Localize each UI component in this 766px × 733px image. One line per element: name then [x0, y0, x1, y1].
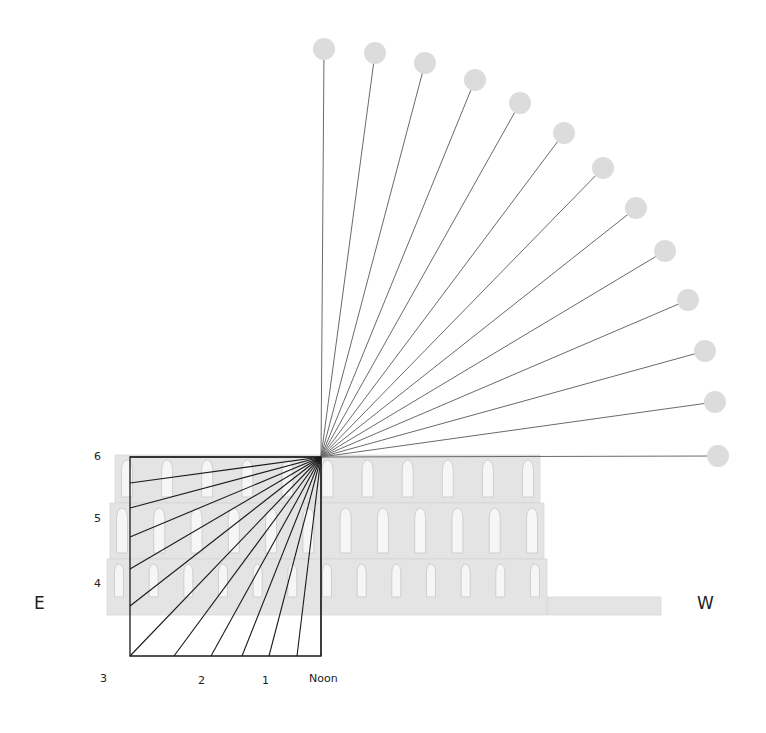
arched-window: [482, 460, 493, 497]
arched-window: [219, 564, 228, 597]
arched-window: [527, 508, 538, 553]
hour-label: 4: [94, 577, 101, 590]
sun-circle-icon: [592, 157, 614, 179]
arched-window: [322, 460, 333, 497]
sun-circle-icon: [694, 340, 716, 362]
arched-window: [523, 460, 534, 497]
arched-window: [115, 564, 124, 597]
arched-window: [496, 564, 505, 597]
arched-window: [340, 508, 351, 553]
arched-window: [149, 564, 158, 597]
arched-window: [402, 460, 413, 497]
arched-window: [362, 460, 373, 497]
hour-label: 2: [198, 674, 205, 687]
arched-window: [228, 508, 239, 553]
arched-window: [357, 564, 366, 597]
arched-window: [122, 460, 133, 497]
arched-window: [202, 460, 213, 497]
arched-window: [253, 564, 262, 597]
sun-circle-icon: [625, 197, 647, 219]
sun-circle-icon: [677, 289, 699, 311]
sun-ray: [321, 168, 603, 457]
hour-label: 3: [100, 672, 107, 685]
sun-circle-icon: [654, 240, 676, 262]
arched-window: [415, 508, 426, 553]
arched-window: [461, 564, 470, 597]
sun-ray: [321, 351, 705, 457]
hour-label: Noon: [309, 672, 338, 685]
sun-circle-icon: [553, 122, 575, 144]
sun-ray: [321, 80, 475, 457]
arched-window: [427, 564, 436, 597]
sun-circle-icon: [464, 69, 486, 91]
sun-ray: [321, 63, 425, 457]
facade-extension: [547, 597, 661, 615]
arched-window: [452, 508, 463, 553]
arched-window: [117, 508, 128, 553]
sun-circle-icon: [509, 92, 531, 114]
sun-ray: [321, 49, 324, 457]
sun-circle-icon: [414, 52, 436, 74]
sun-circle-icon: [313, 38, 335, 60]
hour-label: 5: [94, 512, 101, 525]
sun-ray: [321, 103, 520, 457]
sundial-diagram: [0, 0, 766, 733]
arched-window: [154, 508, 165, 553]
sun-circle-icon: [704, 391, 726, 413]
arched-window: [392, 564, 401, 597]
building-facade: [107, 455, 661, 615]
east-label: E: [34, 593, 45, 613]
sun-circle-icon: [707, 445, 729, 467]
arched-window: [442, 460, 453, 497]
arched-window: [531, 564, 540, 597]
arched-window: [489, 508, 500, 553]
sun-ray: [321, 251, 665, 457]
hour-label: 1: [262, 674, 269, 687]
hour-label: 6: [94, 450, 101, 463]
sun-circle-icon: [364, 42, 386, 64]
west-label: W: [697, 593, 714, 613]
arched-window: [242, 460, 253, 497]
facade-tier: [110, 503, 544, 559]
arched-window: [323, 564, 332, 597]
arched-window: [377, 508, 388, 553]
